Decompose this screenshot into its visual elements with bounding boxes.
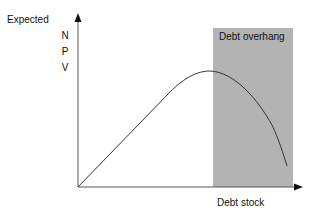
region-label: Debt overhang (219, 31, 285, 42)
y-axis-letter-n: N (60, 28, 70, 44)
x-axis-label: Debt stock (217, 197, 264, 208)
y-axis-letter-p: P (60, 44, 70, 60)
y-axis-arrow-icon (75, 13, 82, 22)
y-axis-npv-letters: N P V (60, 28, 70, 76)
x-axis-arrow-icon (294, 184, 303, 191)
y-axis-label: Expected (7, 14, 49, 25)
y-axis-letter-v: V (60, 60, 70, 76)
debt-overhang-region (213, 28, 293, 187)
